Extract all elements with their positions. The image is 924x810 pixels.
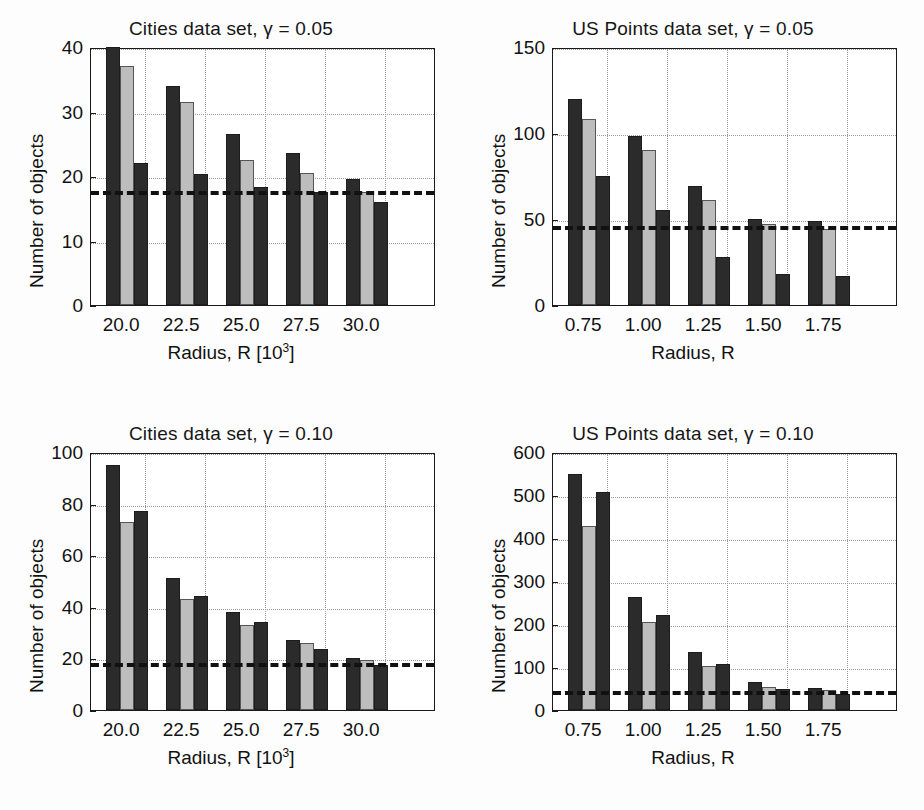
y-tick-mark — [552, 453, 558, 454]
bar — [762, 224, 776, 305]
bar — [120, 522, 134, 710]
y-tick-mark — [90, 242, 96, 243]
bar — [106, 465, 120, 710]
gridline-vertical — [847, 454, 848, 710]
chart-panel-bottom-right: US Points data set, γ = 0.10010020030040… — [462, 405, 924, 810]
plot-area — [552, 453, 897, 711]
y-tick-mark — [552, 582, 558, 583]
gridline-horizontal — [91, 454, 434, 455]
gridline-vertical — [847, 49, 848, 305]
bar — [748, 219, 762, 305]
bar — [226, 134, 240, 305]
plot-area — [90, 48, 435, 306]
bar — [134, 163, 148, 305]
bar — [240, 160, 254, 305]
x-tick-label: 1.25 — [685, 719, 722, 741]
bar — [374, 665, 388, 710]
bar — [748, 682, 762, 710]
y-tick-mark — [90, 48, 96, 49]
y-axis-label: Number of objects — [488, 134, 510, 288]
bar — [314, 192, 328, 305]
bar — [808, 221, 822, 305]
bar — [106, 47, 120, 305]
x-axis-label-tail: ] — [289, 342, 294, 363]
x-tick-label: 1.00 — [625, 719, 662, 741]
y-tick-label: 0 — [28, 295, 83, 317]
bar — [628, 136, 642, 305]
bar — [360, 660, 374, 710]
x-tick-label: 1.00 — [625, 314, 662, 336]
reference-line — [553, 226, 896, 230]
y-tick-mark — [552, 134, 558, 135]
x-tick-label: 22.5 — [163, 719, 200, 741]
x-axis-label: Radius, R — [462, 342, 924, 364]
chart-panel-top-left: Cities data set, γ = 0.0501020304020.022… — [0, 0, 462, 405]
y-tick-mark — [552, 306, 558, 307]
bar — [836, 276, 850, 305]
bar — [120, 66, 134, 305]
x-tick-label: 27.5 — [283, 314, 320, 336]
bar — [642, 622, 656, 710]
x-axis-label: Radius, R — [462, 747, 924, 769]
y-tick-mark — [90, 608, 96, 609]
y-tick-mark — [90, 453, 96, 454]
y-tick-label: 100 — [28, 442, 83, 464]
bar — [688, 652, 702, 710]
y-tick-label: 40 — [28, 37, 83, 59]
bar — [180, 102, 194, 305]
y-tick-mark — [552, 711, 558, 712]
bar — [582, 526, 596, 710]
y-tick-mark — [552, 625, 558, 626]
bar — [286, 153, 300, 305]
figure-four-panel-bar-charts: Cities data set, γ = 0.0501020304020.022… — [0, 0, 924, 810]
bar — [166, 578, 180, 710]
y-tick-label: 500 — [490, 485, 545, 507]
x-tick-label: 25.0 — [223, 719, 260, 741]
bar — [134, 511, 148, 710]
x-tick-label: 1.75 — [805, 719, 842, 741]
bar — [360, 192, 374, 305]
x-axis-label-base: Radius, R [10 — [167, 747, 282, 768]
y-tick-mark — [552, 220, 558, 221]
x-tick-label: 1.25 — [685, 314, 722, 336]
gridline-vertical — [787, 454, 788, 710]
y-tick-mark — [552, 496, 558, 497]
x-tick-label: 25.0 — [223, 314, 260, 336]
y-axis-label: Number of objects — [26, 134, 48, 288]
plot-area — [90, 453, 435, 711]
reference-line — [553, 691, 896, 695]
bar — [568, 99, 582, 305]
bar — [374, 202, 388, 305]
y-tick-label: 0 — [28, 700, 83, 722]
bar — [568, 474, 582, 711]
x-axis-label-tail: ] — [289, 747, 294, 768]
gridline-horizontal — [91, 49, 434, 50]
y-axis-label: Number of objects — [26, 539, 48, 693]
reference-line — [91, 191, 434, 195]
bar — [300, 643, 314, 710]
chart-panel-bottom-left: Cities data set, γ = 0.1002040608010020.… — [0, 405, 462, 810]
bar — [582, 119, 596, 305]
bar — [822, 229, 836, 305]
y-tick-mark — [552, 668, 558, 669]
bar — [314, 649, 328, 710]
bar — [716, 664, 730, 710]
bar — [254, 187, 268, 305]
gridline-horizontal — [553, 49, 896, 50]
y-tick-mark — [90, 711, 96, 712]
bar — [688, 186, 702, 305]
y-tick-mark — [552, 539, 558, 540]
bar — [194, 596, 208, 710]
gridline-horizontal — [553, 135, 896, 136]
y-axis-label: Number of objects — [488, 539, 510, 693]
x-tick-label: 20.0 — [103, 314, 140, 336]
bar — [226, 612, 240, 710]
y-tick-mark — [90, 113, 96, 114]
bar — [716, 257, 730, 305]
y-tick-mark — [90, 505, 96, 506]
bar — [776, 274, 790, 305]
bar — [286, 640, 300, 710]
y-tick-mark — [90, 306, 96, 307]
x-tick-label: 27.5 — [283, 719, 320, 741]
bar — [346, 179, 360, 305]
